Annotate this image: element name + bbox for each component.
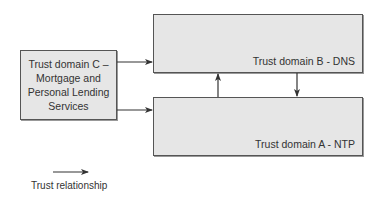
trust-domain-c-label-line: Mortgage and: [28, 71, 110, 85]
trust-domain-c-box: Trust domain C – Mortgage and Personal L…: [20, 50, 117, 120]
trust-domain-b-label: Trust domain B - DNS: [253, 55, 355, 67]
trust-domain-c-label-line: Personal Lending: [28, 85, 110, 99]
trust-domain-c-label-line: Services: [28, 99, 110, 113]
trust-domain-c-label: Trust domain C – Mortgage and Personal L…: [28, 57, 110, 113]
trust-domain-a-label: Trust domain A - NTP: [255, 138, 355, 150]
trust-domain-c-label-line: Trust domain C –: [28, 57, 110, 71]
legend-label: Trust relationship: [31, 180, 107, 191]
trust-domain-b-box: Trust domain B - DNS: [153, 14, 363, 73]
trust-domain-a-box: Trust domain A - NTP: [153, 97, 363, 156]
